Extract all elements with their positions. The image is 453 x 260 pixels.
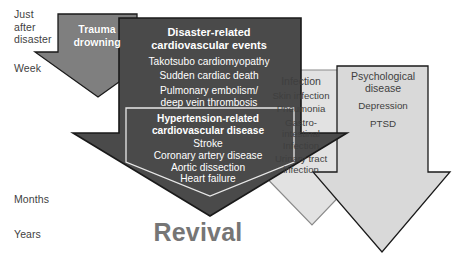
axis-label-just-after-disaster: Just after disaster: [14, 8, 52, 46]
psychological-item-list: Depression PTSD: [341, 100, 425, 137]
list-item: Depression: [341, 100, 425, 111]
infection-item-list: Skin infection Pneumonia Gastro- intesti…: [263, 90, 339, 178]
diagram-canvas: Just after disaster Week Months Years Tr…: [0, 0, 453, 260]
list-item: Urinary tract infection: [263, 153, 339, 176]
axis-label-months: Months: [14, 193, 49, 206]
hypertension-box-heading: Hypertension-related cardiovascular dise…: [134, 113, 282, 137]
list-item: Takotsubo cardiomyopathy: [122, 56, 296, 68]
list-item: Skin infection: [263, 90, 339, 101]
psychological-arrow-heading: Psychological disease: [341, 71, 425, 95]
infection-arrow-heading: Infection: [268, 75, 334, 87]
cardiovascular-arrow-heading: Disaster-related cardiovascular events: [128, 26, 290, 52]
trauma-arrow-heading: Trauma drowning: [60, 23, 134, 49]
axis-label-years: Years: [14, 228, 41, 241]
revival-caption: Revival: [132, 218, 264, 247]
list-item: PTSD: [341, 118, 425, 129]
list-item: Gastro- intestinal Infection: [263, 117, 339, 151]
list-item: Pneumonia: [263, 103, 339, 114]
axis-label-week: Week: [14, 62, 41, 75]
